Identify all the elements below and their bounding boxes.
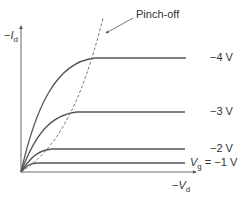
curve-minus-4v xyxy=(21,58,186,172)
curve-label-minus-3v: −3 V xyxy=(210,106,233,117)
curve-label-minus-4v: −4 V xyxy=(210,52,233,63)
curve-label-minus-2v: −2 V xyxy=(210,143,233,154)
curve-minus-1v xyxy=(21,163,185,172)
curve-minus-2v xyxy=(21,149,185,172)
jfet-characteristics-diagram xyxy=(0,0,247,198)
y-axis-label: −Id xyxy=(4,30,18,41)
x-axis-label: −Vd xyxy=(172,180,190,191)
pinch-off-label: Pinch-off xyxy=(136,9,179,20)
curve-label-vg-minus-1v: Vg = −1 V xyxy=(190,157,237,168)
pinch-off-pointer xyxy=(106,18,133,33)
